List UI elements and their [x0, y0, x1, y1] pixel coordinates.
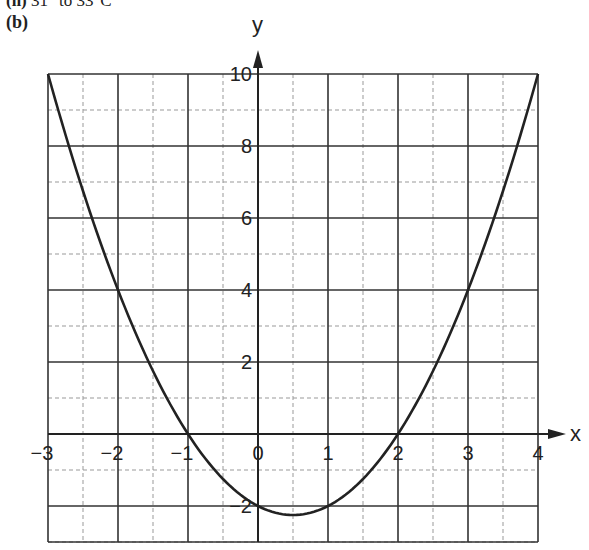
svg-text:4: 4: [241, 279, 252, 301]
grid-minor: [48, 74, 538, 542]
svg-text:y: y: [252, 12, 263, 37]
svg-text:0: 0: [252, 442, 263, 464]
parabola-chart: xy −3−2−101234−2246810: [0, 0, 589, 550]
svg-text:8: 8: [241, 135, 252, 157]
svg-text:2: 2: [241, 351, 252, 373]
svg-text:1: 1: [322, 442, 333, 464]
svg-text:4: 4: [532, 442, 543, 464]
svg-text:3: 3: [462, 442, 473, 464]
svg-text:10: 10: [230, 63, 252, 85]
svg-text:−1: −1: [171, 442, 194, 464]
svg-text:2: 2: [392, 442, 403, 464]
svg-text:−2: −2: [229, 495, 252, 517]
svg-text:6: 6: [241, 207, 252, 229]
svg-text:−2: −2: [101, 442, 124, 464]
axes: xy: [48, 12, 581, 542]
svg-text:−3: −3: [31, 442, 54, 464]
svg-text:x: x: [570, 421, 581, 446]
